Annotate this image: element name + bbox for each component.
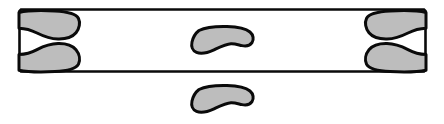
diagram-canvas <box>0 0 444 124</box>
diagram-figure: Schematic outline diagram Elongated hori… <box>0 0 444 124</box>
